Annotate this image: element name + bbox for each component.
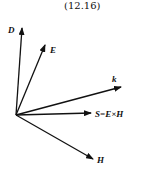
vector-diagram: D E k S=E×H H (0, 0, 142, 171)
label-e: E (49, 45, 56, 55)
vector-s-arrow (16, 113, 91, 115)
label-s: S=E×H (95, 109, 124, 119)
label-k: k (112, 74, 117, 84)
vector-h-arrow (16, 115, 93, 159)
label-h: H (96, 155, 105, 165)
label-d: D (7, 25, 15, 35)
